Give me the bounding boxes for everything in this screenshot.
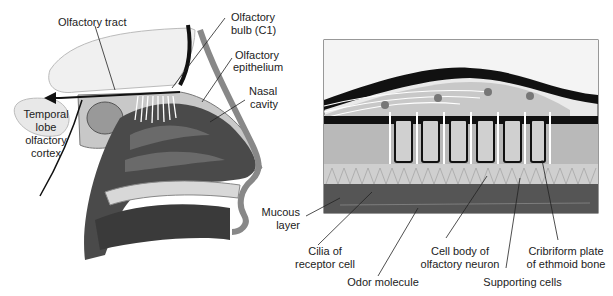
label-cilia-line2: receptor cell: [290, 258, 360, 270]
label-nasal-cavity-line2: cavity: [250, 98, 278, 110]
label-olfactory-tract: Olfactory tract: [58, 16, 126, 28]
label-temporal-line4: cortex: [20, 147, 72, 159]
label-temporal-line3: olfactory: [20, 134, 72, 146]
label-mucous-layer-line2: layer: [256, 219, 300, 231]
label-mucous-layer-line1: Mucous: [256, 206, 300, 218]
label-temporal-line1: Temporal: [20, 108, 72, 120]
label-supporting-cells: Supporting cells: [475, 276, 570, 288]
label-cilia-line1: Cilia of: [290, 245, 360, 257]
label-odor-molecule: Odor molecule: [338, 276, 428, 288]
label-cribriform-line1: Cribriform plate: [520, 245, 612, 257]
label-olfactory-bulb-line2: bulb (C1): [231, 24, 276, 36]
label-olfactory-epithelium-line2: epithelium: [233, 61, 283, 73]
label-olfactory-epithelium-line1: Olfactory: [235, 49, 279, 61]
label-olfactory-bulb-line1: Olfactory: [231, 11, 275, 23]
label-nasal-cavity-line1: Nasal: [249, 85, 277, 97]
label-cell-body-line2: olfactory neuron: [415, 258, 505, 270]
right-panel-epithelium-detail: [306, 40, 598, 276]
olfactory-anatomy-figure: Olfactory tract Olfactory bulb (C1) Olfa…: [0, 0, 613, 296]
label-cribriform-line2: of ethmoid bone: [520, 258, 612, 270]
label-cell-body-line1: Cell body of: [415, 245, 505, 257]
label-temporal-line2: lobe: [20, 121, 72, 133]
